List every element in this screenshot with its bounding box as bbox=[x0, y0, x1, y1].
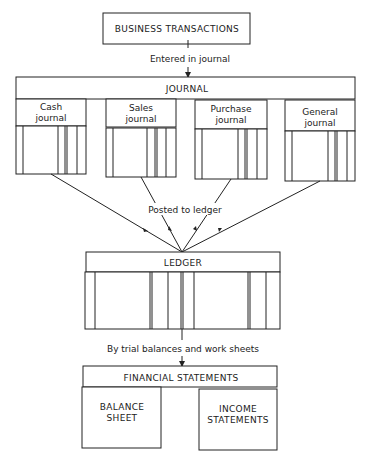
business-transactions-label: BUSINESS TRANSACTIONS bbox=[115, 24, 239, 34]
balance-sheet-line1: BALANCE bbox=[100, 402, 145, 412]
cash-journal-line2: journal bbox=[35, 113, 67, 123]
trial-balances-connector: By trial balances and work sheets bbox=[107, 329, 259, 366]
financial-statements-title: FINANCIAL STATEMENTS bbox=[124, 373, 239, 383]
sales-journal: Sales journal bbox=[106, 99, 176, 177]
general-journal-line1: General bbox=[302, 107, 337, 117]
entered-in-journal-label: Entered in journal bbox=[150, 54, 230, 64]
income-statements-box: INCOME STATEMENTS bbox=[199, 389, 277, 450]
business-transactions-box: BUSINESS TRANSACTIONS bbox=[103, 13, 250, 44]
ledger-box: LEDGER bbox=[85, 252, 280, 329]
balance-sheet-box: BALANCE SHEET bbox=[82, 387, 161, 448]
sales-journal-line1: Sales bbox=[129, 103, 153, 113]
purchase-journal-line2: journal bbox=[215, 115, 247, 125]
income-statements-line2: STATEMENTS bbox=[207, 415, 269, 425]
cash-journal-line1: Cash bbox=[40, 102, 62, 112]
purchase-journal: Purchase journal bbox=[195, 100, 267, 179]
trial-balances-label: By trial balances and work sheets bbox=[107, 344, 259, 354]
purchase-journal-line1: Purchase bbox=[211, 104, 252, 114]
journal-title: JOURNAL bbox=[165, 84, 209, 94]
journal-box: JOURNAL Cash journal Sales journal bbox=[16, 77, 355, 181]
balance-sheet-line2: SHEET bbox=[107, 413, 138, 423]
entered-in-journal-connector: Entered in journal bbox=[150, 40, 230, 77]
cash-journal: Cash journal bbox=[16, 99, 86, 174]
general-journal: General journal bbox=[285, 100, 355, 181]
sales-journal-line2: journal bbox=[125, 114, 157, 124]
general-journal-line2: journal bbox=[304, 118, 336, 128]
posted-to-ledger-label: Posted to ledger bbox=[148, 205, 222, 215]
financial-statements-box: FINANCIAL STATEMENTS BALANCE SHEET INCOM… bbox=[82, 366, 277, 450]
income-statements-line1: INCOME bbox=[219, 404, 257, 414]
ledger-title: LEDGER bbox=[164, 258, 202, 268]
posted-to-ledger-connectors: Posted to ledger bbox=[51, 174, 320, 252]
arrow-head-icon bbox=[193, 226, 197, 231]
accounting-flow-diagram: BUSINESS TRANSACTIONS Entered in journal… bbox=[0, 0, 368, 461]
